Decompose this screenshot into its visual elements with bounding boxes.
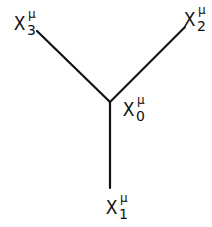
edge-x0-x2 [110, 27, 185, 102]
label-x0-subscript: 0 [136, 109, 145, 123]
label-x2-base: X [184, 10, 196, 29]
label-x3-base: X [14, 14, 26, 33]
label-x1-base: X [106, 198, 118, 217]
label-x3-subscript: 3 [27, 23, 36, 37]
label-x0: X μ 0 [122, 100, 135, 119]
edge-x0-x3 [37, 31, 110, 102]
label-x1: X μ 1 [105, 198, 118, 217]
label-x2-superscript: μ [198, 4, 206, 16]
label-x0-base: X [123, 100, 135, 119]
diagram-canvas: X μ 3 X μ 2 X μ 0 X μ 1 [0, 0, 212, 227]
label-x1-subscript: 1 [119, 207, 128, 221]
label-x1-superscript: μ [120, 192, 128, 204]
label-x0-superscript: μ [137, 94, 145, 106]
label-x2: X μ 2 [183, 10, 196, 29]
label-x3: X μ 3 [13, 14, 26, 33]
label-x3-superscript: μ [28, 8, 36, 20]
label-x2-subscript: 2 [197, 19, 206, 33]
